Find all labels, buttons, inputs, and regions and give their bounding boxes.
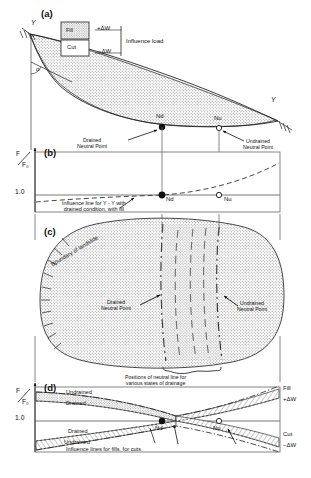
cut-box-label: Cut	[67, 44, 76, 50]
band-upper-right	[176, 389, 279, 421]
panel-b	[18, 148, 280, 212]
panel-b-y-den: F₀	[22, 161, 29, 168]
ground-hatch-right	[276, 120, 292, 133]
right-cut-label: Cut	[283, 431, 292, 437]
load-minus-label: −ΔW	[98, 48, 111, 54]
caption-arrow-d-1	[174, 425, 178, 444]
nu-label-b: Nu	[224, 196, 232, 202]
load-plus-label: +ΔW	[97, 25, 110, 31]
nu-marker-d	[216, 418, 221, 423]
panel-b-y-num: F	[16, 150, 20, 157]
neutral-positions-caption: Positions of neutral line for various st…	[125, 374, 186, 386]
nu-label-a: Nu	[214, 115, 222, 121]
nd-marker-d	[159, 418, 165, 424]
panel-d-y-den: F₀	[22, 398, 29, 405]
nu-label-d: Nu	[213, 425, 221, 431]
drained-neutral-point-a: Drained Neutral Point	[77, 137, 107, 149]
nd-arrow-a	[128, 130, 157, 140]
nu-arrow-a	[223, 131, 244, 141]
section-label-left: Y	[31, 19, 36, 26]
influence-line-b	[36, 163, 279, 202]
panel-c-tag: (c)	[44, 226, 56, 237]
undrained-neutral-point-c: Undrained Neutral Point	[237, 300, 267, 312]
figure-neutral-point	[0, 0, 311, 478]
panel-d	[18, 383, 280, 452]
nu-marker-a	[216, 125, 221, 130]
drained-neutral-point-c: Drained Neutral Point	[101, 299, 131, 311]
undrained-neutral-point-a: Undrained Neutral Point	[243, 138, 273, 150]
upper-band-top-label: Undrained	[66, 389, 92, 395]
panel-d-y-tick: 1.0	[15, 414, 24, 421]
alpha-label: α	[36, 66, 39, 72]
nd-label-d: Nd	[155, 425, 163, 431]
neutral-line-band	[161, 224, 222, 361]
lower-band-bottom-label: Undrained	[64, 439, 90, 445]
panel-d-tag: (d)	[44, 382, 56, 393]
nu-marker-b	[216, 192, 221, 197]
upper-band-bottom-label: Drained	[66, 400, 86, 406]
band-upper-left	[36, 392, 176, 421]
panel-b-tag: (b)	[44, 147, 56, 158]
nd-label-a: Nd	[156, 113, 164, 119]
panel-a-tag: (a)	[41, 8, 53, 19]
nd-label-b: Nd	[166, 196, 174, 202]
influence-load-label: Influence load	[126, 38, 163, 44]
panel-d-y-num: F	[16, 387, 20, 394]
right-cut-dw-label: −ΔW	[283, 442, 296, 448]
right-fill-label: Fill	[283, 385, 291, 391]
fill-box-label: Fill	[66, 27, 73, 33]
section-label-right: Y	[271, 96, 276, 103]
panel-d-caption: Influence lines for fills, for cuts	[66, 446, 141, 452]
lower-band-top-label: Drained	[68, 428, 88, 434]
panel-b-y-tick: 1.0	[15, 188, 24, 195]
panel-b-caption: Influence line for Y - Y with drained co…	[62, 200, 126, 212]
right-fill-dw-label: +ΔW	[283, 396, 296, 402]
nd-marker-b	[159, 192, 166, 199]
